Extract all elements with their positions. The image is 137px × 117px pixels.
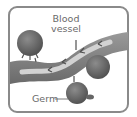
germ-1 <box>17 30 43 60</box>
blood-vessel-label: Blood vessel <box>46 14 86 34</box>
germ-2 <box>86 55 110 79</box>
germ-3 <box>66 82 94 104</box>
blood-vessel-label-line2: vessel <box>46 24 86 34</box>
germ-label: Germ <box>32 94 58 104</box>
